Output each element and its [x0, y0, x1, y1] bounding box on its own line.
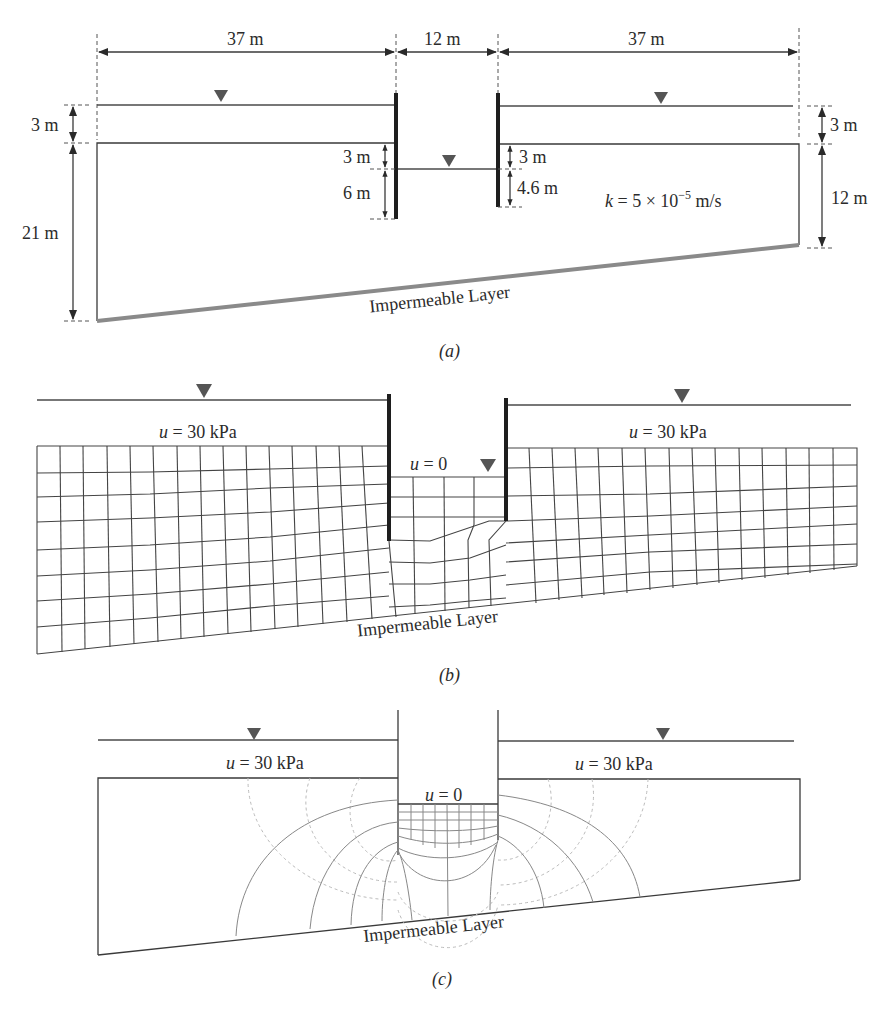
dim-left-depth: 21 m	[22, 223, 59, 243]
caption-a: (a)	[439, 341, 460, 362]
panel-c-labels: u = 30 kPa u = 30 kPa u = 0 Impermeable …	[226, 753, 653, 990]
right-pressure-c: u = 30 kPa	[575, 754, 653, 774]
caption-b: (b)	[439, 665, 460, 686]
excavation-pressure-b: u = 0	[410, 454, 447, 474]
dim-right-water: 3 m	[830, 115, 858, 135]
seepage-figure: 37 m 12 m 37 m 3 m 21 m 3 m 6 m 3 m 4.6 …	[0, 0, 894, 1011]
impermeable-label-b: Impermeable Layer	[356, 606, 499, 641]
impermeable-label-a: Impermeable Layer	[368, 282, 511, 317]
panel-a-geometry	[64, 28, 832, 321]
dim-wall-right-top: 3 m	[519, 147, 547, 167]
water-level-icon	[247, 728, 261, 740]
water-level-icon	[214, 90, 228, 102]
dim-wall-right-bottom: 4.6 m	[517, 178, 558, 198]
water-level-icon	[480, 459, 496, 472]
panel-a-labels: 37 m 12 m 37 m 3 m 21 m 3 m 6 m 3 m 4.6 …	[22, 29, 868, 362]
dim-right-width: 37 m	[628, 29, 665, 49]
water-level-icon	[674, 389, 690, 403]
dim-left-width: 37 m	[227, 29, 264, 49]
right-pressure-b: u = 30 kPa	[629, 422, 707, 442]
water-level-icon	[442, 155, 456, 167]
permeability-label: k = 5 × 10−5 m/s	[605, 188, 722, 211]
excavation-pressure-c: u = 0	[425, 785, 462, 805]
left-pressure-b: u = 30 kPa	[159, 422, 237, 442]
water-level-icon	[654, 92, 668, 104]
caption-c: (c)	[432, 969, 452, 990]
dim-right-depth: 12 m	[831, 188, 868, 208]
left-pressure-c: u = 30 kPa	[226, 753, 304, 773]
dim-wall-left-top: 3 m	[343, 147, 371, 167]
water-level-icon	[196, 384, 212, 398]
dim-mid-width: 12 m	[424, 29, 461, 49]
water-level-icon	[656, 728, 670, 740]
impermeable-label-c: Impermeable Layer	[362, 911, 505, 946]
dim-wall-left-bottom: 6 m	[343, 183, 371, 203]
dim-left-water: 3 m	[31, 115, 59, 135]
